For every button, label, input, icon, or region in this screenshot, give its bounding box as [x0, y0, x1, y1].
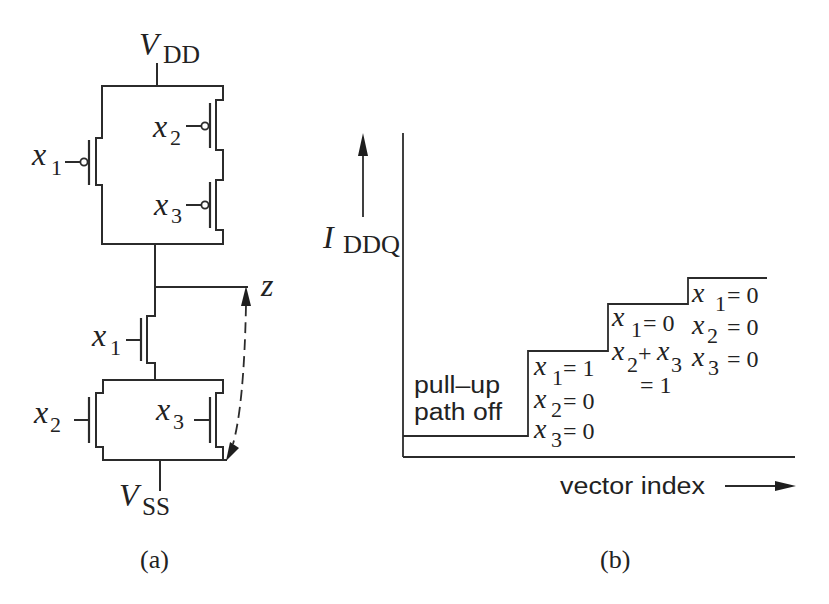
y-axis-subscript: DDQ — [343, 230, 400, 259]
step-1-line-2: path off — [414, 399, 503, 425]
condition-var: x — [691, 277, 705, 308]
y-axis-arrow-icon — [358, 133, 368, 217]
condition-sub: 1 — [552, 365, 563, 390]
condition-value: = 0 — [727, 282, 759, 308]
nmos-x2-label: x — [33, 394, 48, 430]
condition-sub: 1 — [715, 291, 726, 316]
condition-var: x — [533, 383, 547, 414]
y-axis-symbol: I — [322, 219, 335, 255]
condition-sub: 2 — [707, 323, 718, 348]
x-axis-label: vector index — [560, 473, 706, 499]
vss-symbol: V — [119, 477, 142, 513]
panel-b-plot: I DDQ pull–up path off x 1 = 1 x 2 = 0 x… — [322, 133, 796, 574]
condition-sub: 1 — [631, 317, 642, 342]
condition-var: x — [656, 335, 670, 366]
pmos-x1-branch — [96, 86, 102, 244]
condition-sub: 3 — [551, 427, 562, 452]
pmos-x1-inversion-bubble-icon — [80, 158, 87, 165]
figure: V DD x 1 x 2 x 3 z x 1 — [0, 0, 829, 604]
pmos-x1-label: x — [31, 136, 46, 172]
condition-sub: 3 — [708, 355, 719, 380]
pmos-x3-label: x — [153, 186, 168, 222]
condition-value: = 0 — [643, 310, 675, 336]
pmos-x2-label: x — [152, 108, 167, 144]
condition-var: x — [533, 413, 547, 444]
nmos-x2-label-sub: 2 — [50, 412, 61, 437]
leakage-path-arrow-icon — [226, 286, 251, 461]
pmos-x1-label-sub: 1 — [51, 155, 62, 180]
nmos-x3-label-sub: 3 — [173, 409, 184, 434]
condition-var: x — [533, 350, 547, 381]
pmos-x2-label-sub: 2 — [170, 125, 181, 150]
vdd-subscript: DD — [163, 40, 200, 69]
pmos-x3-inversion-bubble-icon — [201, 201, 208, 208]
output-wire — [147, 244, 155, 380]
condition-value: = 0 — [563, 388, 595, 414]
step-1-line-1: pull–up — [414, 372, 500, 398]
condition-sub: 3 — [671, 352, 682, 377]
condition-value: = 0 — [727, 346, 759, 372]
condition-value: = 0 — [727, 314, 759, 340]
condition-sub: 2 — [551, 397, 562, 422]
condition-var: x — [611, 335, 625, 366]
panel-b-caption: (b) — [600, 545, 630, 574]
condition-operator: + — [638, 340, 652, 366]
nmos-x1-label: x — [91, 317, 106, 353]
condition-value: = 0 — [563, 418, 595, 444]
vss-subscript: SS — [142, 492, 170, 521]
nmos-x3-label: x — [155, 391, 170, 427]
nmos-x1-label-sub: 1 — [110, 335, 121, 360]
step-3-conditions: x 1 = 0 x 2 + x 3 = 1 — [611, 301, 682, 398]
condition-value: = 1 — [640, 372, 672, 398]
condition-var: x — [691, 341, 705, 372]
condition-var: x — [691, 309, 705, 340]
nmos-x2-branch — [96, 380, 103, 460]
panel-a-caption: (a) — [140, 545, 169, 574]
condition-sub: 2 — [627, 352, 638, 377]
step-2-conditions: x 1 = 1 x 2 = 0 x 3 = 0 — [533, 350, 595, 452]
pmos-x3-label-sub: 3 — [171, 203, 182, 228]
panel-a-circuit: V DD x 1 x 2 x 3 z x 1 — [31, 26, 274, 574]
nmos-x3-branch — [216, 380, 223, 460]
vdd-symbol: V — [139, 26, 162, 62]
step-4-conditions: x 1 = 0 x 2 = 0 x 3 = 0 — [691, 277, 759, 380]
pmos-series-branch — [216, 86, 223, 244]
x-axis-arrow-icon — [725, 481, 796, 491]
condition-var: x — [611, 301, 625, 332]
condition-value: = 1 — [563, 355, 595, 381]
pmos-x2-inversion-bubble-icon — [201, 122, 208, 129]
output-z-label: z — [260, 267, 274, 303]
